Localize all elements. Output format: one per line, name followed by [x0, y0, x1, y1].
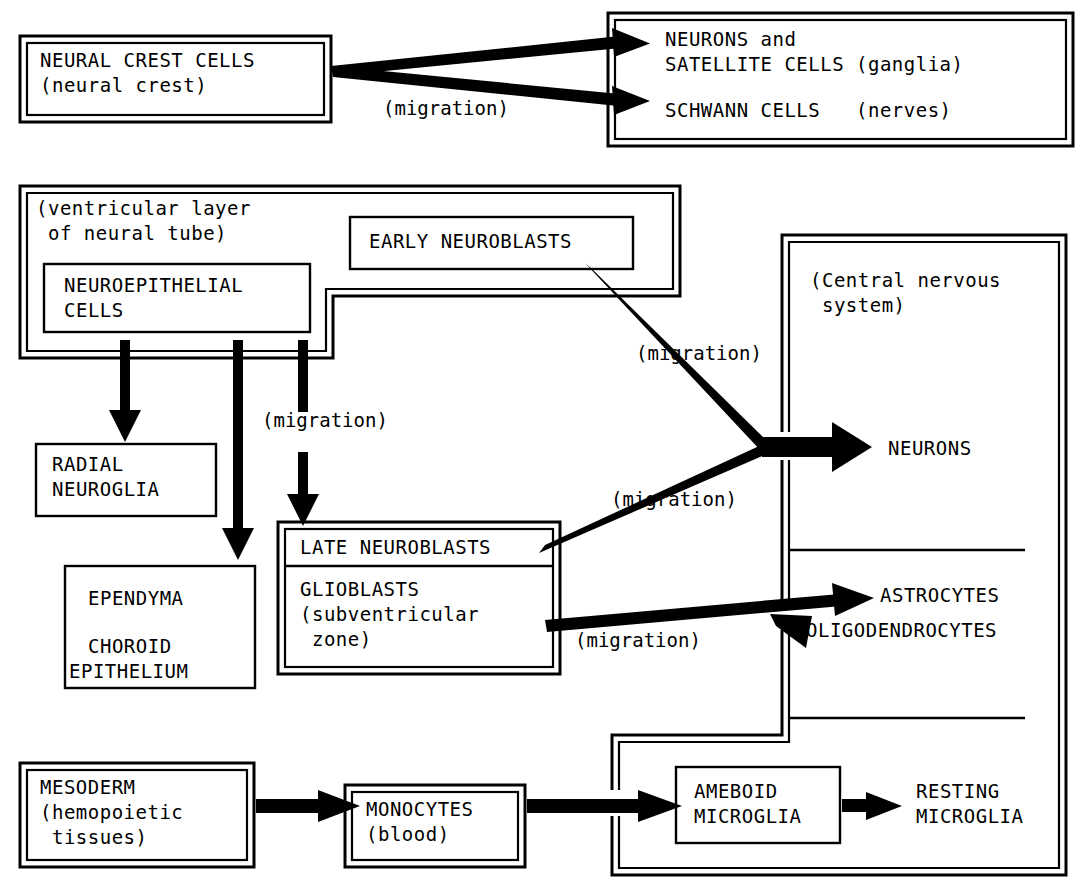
edge-neurons-arrowhead: [762, 422, 872, 472]
node-glioblasts-line1: GLIOBLASTS: [300, 577, 419, 602]
node-glioblasts-line2: (subventricular: [300, 602, 479, 627]
edge-to-ependyma: [222, 340, 254, 560]
node-cns-line1: (Central nervous: [810, 268, 1001, 293]
node-neural-crest-cells-line1: NEURAL CREST CELLS: [40, 48, 255, 73]
node-radial-neuroglia-line1: RADIAL: [52, 452, 124, 477]
node-early-neuroblasts-label: EARLY NEUROBLASTS: [369, 229, 572, 254]
edge-label-migration-crest: (migration): [383, 96, 509, 120]
node-cns-line2: system): [810, 293, 906, 318]
output-resting-microglia-line2: MICROGLIA: [916, 804, 1023, 829]
edge-label-migration-glioblasts: (migration): [575, 628, 701, 652]
node-mesoderm-line1: MESODERM: [40, 775, 136, 800]
node-mesoderm-line3: tissues): [40, 825, 147, 850]
node-glioblasts-line3: zone): [300, 627, 372, 652]
node-ependyma-line3: EPITHELIUM: [69, 659, 188, 684]
node-ependyma-line2: CHOROID: [88, 634, 172, 659]
node-monocytes-line1: MONOCYTES: [366, 797, 473, 822]
node-ameboid-microglia-line2: MICROGLIA: [694, 804, 801, 829]
node-pns-line2: SATELLITE CELLS (ganglia): [665, 52, 963, 77]
node-ventricular-layer-line2: of neural tube): [36, 221, 227, 246]
node-mesoderm-line2: (hemopoietic: [40, 800, 183, 825]
edge-ameboid-to-resting: [842, 792, 902, 820]
edge-to-late-neuroblasts: [287, 340, 319, 526]
edge-label-migration-late-neuroblasts: (migration): [611, 487, 737, 511]
node-ependyma-line1: EPENDYMA: [88, 586, 184, 611]
edge-to-radial-neuroglia: [109, 340, 141, 442]
edge-label-migration-neuroepithelial: (migration): [262, 408, 388, 432]
node-radial-neuroglia-line2: NEUROGLIA: [52, 477, 159, 502]
edge-crest-to-neurons: [331, 28, 650, 76]
edge-label-migration-early-neuroblasts: (migration): [636, 341, 762, 365]
node-pns-line3: SCHWANN CELLS (nerves): [665, 98, 952, 123]
diagram-canvas: .bx{fill:none;stroke:#000;stroke-width:3…: [0, 0, 1083, 890]
edge-monocytes-to-ameboid: [527, 790, 682, 822]
node-neuroepithelial-cells-line2: CELLS: [64, 298, 124, 323]
node-monocytes-line2: (blood): [366, 822, 450, 847]
output-neurons-label: NEURONS: [888, 436, 972, 461]
output-astrocytes-label: ASTROCYTES: [880, 583, 999, 608]
node-neural-crest-cells-line2: (neural crest): [40, 73, 207, 98]
node-late-neuroblasts-label: LATE NEUROBLASTS: [300, 535, 491, 560]
node-pns-line1: NEURONS and: [665, 27, 796, 52]
output-oligodendrocytes-label: OLIGODENDROCYTES: [806, 618, 997, 643]
output-resting-microglia-line1: RESTING: [916, 779, 1000, 804]
node-ameboid-microglia-line1: AMEBOID: [694, 779, 778, 804]
node-ventricular-layer-line1: (ventricular layer: [36, 196, 251, 221]
node-neuroepithelial-cells-line1: NEUROEPITHELIAL: [64, 273, 243, 298]
